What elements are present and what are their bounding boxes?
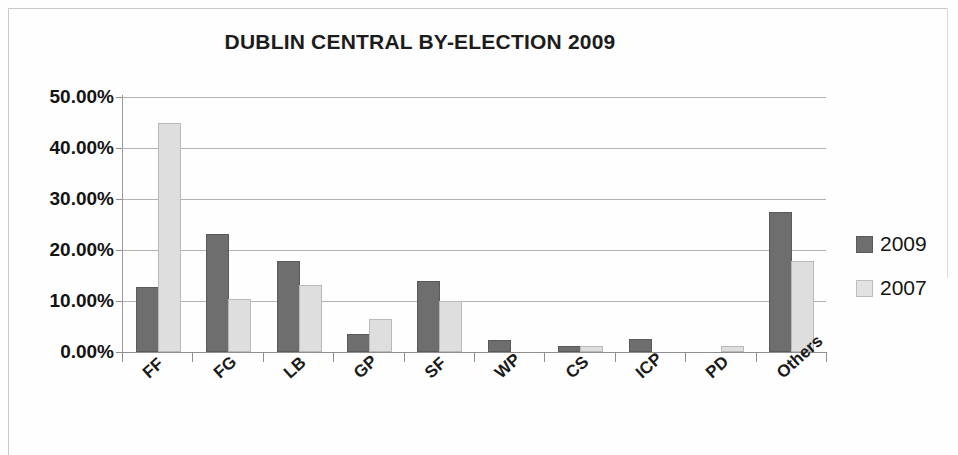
- bar: [206, 234, 229, 352]
- x-axis-tick-label: FG: [210, 352, 241, 383]
- bar: [580, 346, 603, 352]
- y-axis-tick-label: 40.00%: [10, 138, 114, 157]
- x-axis-tick-mark: [263, 353, 264, 362]
- bar: [369, 319, 392, 352]
- y-axis-tick-label: 10.00%: [10, 291, 114, 310]
- y-axis-tick-label: 30.00%: [10, 189, 114, 208]
- plot-area: [122, 97, 826, 352]
- bar: [277, 261, 300, 352]
- x-axis-tick-mark: [685, 353, 686, 362]
- x-axis-tick-label: FF: [139, 354, 168, 383]
- x-axis-tick-label: GP: [350, 352, 382, 383]
- x-axis-tick-label: SF: [421, 353, 451, 382]
- bar: [629, 339, 652, 352]
- x-axis-tick-label: LB: [280, 353, 310, 383]
- legend-color-swatch: [856, 236, 873, 253]
- x-axis-tick-mark: [474, 353, 475, 362]
- y-axis-tick-label: 50.00%: [10, 87, 114, 106]
- bar: [558, 346, 581, 352]
- legend-color-swatch: [856, 280, 873, 297]
- chart-title: DUBLIN CENTRAL BY-ELECTION 2009: [0, 30, 840, 54]
- bar: [721, 346, 744, 352]
- bar: [769, 212, 792, 352]
- legend-label: 2007: [880, 276, 927, 300]
- x-axis-tick-mark: [756, 353, 757, 362]
- x-axis-tick-mark: [826, 353, 827, 362]
- bar: [136, 287, 159, 352]
- bar: [299, 285, 322, 352]
- legend-item: 2009: [856, 222, 956, 266]
- y-axis-tick-labels: 0.00%10.00%20.00%30.00%40.00%50.00%: [4, 0, 114, 455]
- x-axis-tick-mark: [544, 353, 545, 362]
- x-axis-tick-mark: [404, 353, 405, 362]
- bar: [439, 301, 462, 352]
- x-axis-tick-label: PD: [702, 352, 733, 383]
- x-axis-tick-label: CS: [562, 352, 593, 383]
- y-axis-tick-label: 0.00%: [10, 342, 114, 361]
- y-axis-tick-label: 20.00%: [10, 240, 114, 259]
- chart-image-frame: DUBLIN CENTRAL BY-ELECTION 2009 0.00%10.…: [0, 0, 958, 455]
- x-axis-tick-mark: [192, 353, 193, 362]
- legend-item: 2007: [856, 266, 956, 310]
- x-axis-tick-mark: [122, 353, 123, 362]
- bar: [417, 281, 440, 352]
- chart-legend: 20092007: [856, 222, 956, 310]
- bar-chart: DUBLIN CENTRAL BY-ELECTION 2009 0.00%10.…: [0, 0, 958, 455]
- bar: [347, 334, 370, 352]
- bar: [228, 299, 251, 352]
- bar: [158, 123, 181, 352]
- bar: [488, 340, 511, 352]
- x-axis-tick-label: WP: [491, 350, 525, 383]
- x-axis-tick-mark: [333, 353, 334, 362]
- x-axis-tick-label: ICP: [632, 349, 666, 383]
- legend-label: 2009: [880, 232, 927, 256]
- x-axis-tick-mark: [615, 353, 616, 362]
